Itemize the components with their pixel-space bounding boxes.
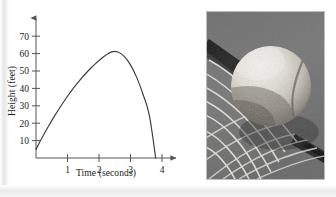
tennis-ball-photo-image	[207, 12, 324, 179]
chart-plot-area: 10 20 30 40 50 60 70 1 2 3 4	[0, 0, 196, 186]
y-tick-label: 20	[20, 119, 30, 129]
photo-grain-overlay	[207, 12, 324, 179]
y-tick-label: 30	[20, 101, 30, 111]
y-tick-label: 70	[20, 32, 30, 42]
y-axis-tick-labels: 10 20 30 40 50 60 70	[20, 32, 30, 146]
y-tick-label: 10	[20, 136, 30, 146]
scan-edge-band-bottom	[0, 185, 336, 197]
y-tick-label: 40	[20, 84, 30, 94]
y-tick-label: 60	[20, 49, 30, 59]
y-tick-label: 50	[20, 66, 30, 76]
height-vs-time-chart: 10 20 30 40 50 60 70 1 2 3 4 Height (fee…	[0, 0, 196, 186]
trajectory-curve	[36, 51, 156, 158]
textbook-figure: 10 20 30 40 50 60 70 1 2 3 4 Height (fee…	[0, 0, 336, 197]
y-axis-title: Height (feet)	[7, 55, 17, 127]
x-axis-title: Time (seconds)	[48, 168, 164, 178]
tennis-ball-photo	[206, 11, 325, 180]
